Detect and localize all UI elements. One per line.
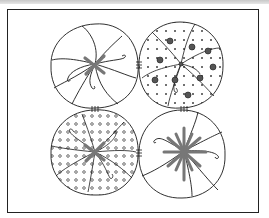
rosette-top-right <box>139 22 223 108</box>
yoyo-illustration <box>0 0 269 218</box>
star-burst-stitch-icon <box>164 128 206 180</box>
